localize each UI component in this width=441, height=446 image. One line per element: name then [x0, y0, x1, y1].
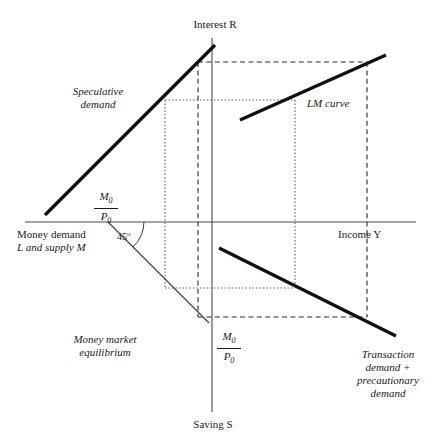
real-balances-fraction-upper: M0 P0	[93, 190, 119, 227]
fraction-numerator: M0	[93, 190, 119, 208]
fraction-denominator: P0	[216, 349, 242, 367]
forty-five-degree-arc	[133, 222, 144, 247]
construction-lines-dotted	[165, 100, 295, 288]
axis-label-saving-s: Saving S	[168, 418, 258, 432]
axis-label-money-demand-line1: Money demand	[17, 228, 86, 242]
transaction-demand-label-line3: precautionary	[340, 374, 436, 388]
transaction-demand-curve	[219, 248, 396, 336]
transaction-demand-label-line1: Transaction	[340, 348, 436, 362]
transaction-demand-label-line4: demand	[340, 387, 436, 401]
real-balances-fraction-lower: M0 P0	[216, 330, 242, 367]
speculative-demand-label-line2: demand	[48, 98, 148, 112]
fraction-denominator: P0	[93, 209, 119, 227]
transaction-demand-label-line2: demand +	[340, 361, 436, 375]
speculative-demand-curve	[45, 45, 215, 215]
speculative-demand-label-line1: Speculative	[48, 85, 148, 99]
money-market-equilibrium-label-line1: Money market	[45, 333, 165, 347]
forty-five-degree-label: 45o	[117, 228, 131, 244]
axis-label-income-y: Income Y	[338, 228, 381, 242]
axis-label-money-supply-line2: L and supply M	[17, 241, 86, 255]
axis-label-interest-r: Interest R	[170, 18, 260, 32]
fraction-numerator: M0	[216, 330, 242, 348]
lm-curve-label: LM curve	[307, 97, 349, 111]
money-market-equilibrium-label-line2: equilibrium	[45, 346, 165, 360]
